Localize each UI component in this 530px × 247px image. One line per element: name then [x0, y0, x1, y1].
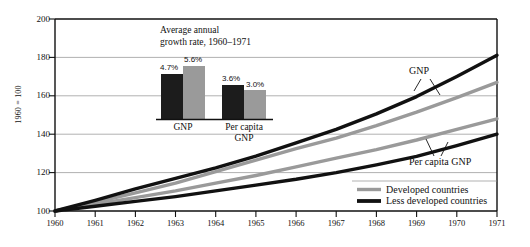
inset-category-percapita-line2: GNP: [214, 133, 274, 144]
inset-bar-gnp-developed: [183, 66, 205, 119]
inset-title-line2: growth rate, 1960–1971: [160, 36, 251, 48]
x-tickmarks: [55, 211, 497, 217]
inset-category-gnp: GNP: [153, 122, 213, 133]
inset-label-5-6: 5.6%: [184, 56, 202, 64]
x-tick-1964: 1964: [196, 219, 236, 228]
y-tick-100: 100: [37, 207, 51, 216]
x-tick-1961: 1961: [75, 219, 115, 228]
legend-label-developed: Developed countries: [386, 185, 468, 195]
y-tick-labels: 200 180 160 140 120 100: [0, 0, 50, 247]
x-tick-1970: 1970: [437, 219, 477, 228]
y-tick-120: 120: [37, 168, 51, 177]
y-tick-200: 200: [37, 15, 51, 24]
inset-category-percapita-line1: Per capita: [214, 122, 274, 133]
x-tick-1969: 1969: [397, 219, 437, 228]
inset-label-3-0: 3.0%: [246, 81, 264, 89]
inset-bar-gnp-less-developed: [161, 74, 183, 119]
inset-label-4-7: 4.7%: [160, 64, 178, 72]
x-tick-1967: 1967: [316, 219, 356, 228]
annotation-per-capita-gnp: Per capita GNP: [409, 157, 471, 167]
x-tick-1960: 1960: [35, 219, 75, 228]
inset-bar-percapita-developed: [244, 90, 266, 119]
annotation-gnp: GNP: [409, 66, 429, 76]
y-tick-140: 140: [37, 130, 51, 139]
chart-figure: 1960 = 100 200 180 160 140 120 100 1960 …: [0, 0, 530, 247]
x-tick-1962: 1962: [115, 219, 155, 228]
x-tick-1966: 1966: [276, 219, 316, 228]
y-tick-180: 180: [37, 53, 51, 62]
x-tick-1963: 1963: [156, 219, 196, 228]
inset-label-3-6: 3.6%: [222, 75, 240, 83]
x-tick-1971: 1971: [477, 219, 517, 228]
x-tick-1968: 1968: [356, 219, 396, 228]
inset-title-line1: Average annual: [160, 24, 219, 36]
inset-bar-chart: [156, 66, 273, 120]
legend-label-less-developed: Less developed countries: [386, 196, 487, 206]
x-tick-1965: 1965: [236, 219, 276, 228]
y-tick-160: 160: [37, 91, 51, 100]
inset-bar-percapita-less-developed: [222, 85, 244, 119]
